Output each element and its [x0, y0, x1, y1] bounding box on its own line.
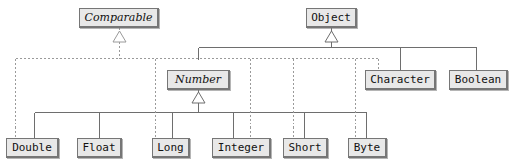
edge-group-object-extends — [199, 28, 477, 70]
class-label-boolean: Boolean — [454, 74, 502, 85]
arrowhead-number-inheritance — [192, 92, 205, 103]
class-box-object[interactable]: Object — [306, 8, 357, 28]
class-box-long[interactable]: Long — [152, 138, 190, 158]
class-label-byte: Byte — [353, 142, 382, 153]
class-label-integer: Integer — [217, 142, 265, 153]
class-label-short: Short — [287, 142, 322, 153]
class-box-boolean[interactable]: Boolean — [449, 70, 508, 90]
class-box-integer[interactable]: Integer — [212, 138, 271, 158]
class-label-double: Double — [11, 142, 53, 153]
edge-group-number-extends — [35, 90, 367, 138]
arrowhead-comparable-realization — [113, 31, 126, 42]
class-label-comparable: Comparable — [84, 12, 154, 23]
class-label-float: Float — [81, 142, 116, 153]
class-hierarchy-diagram: Comparable Object Number Character Boole… — [0, 0, 513, 164]
class-box-number[interactable]: Number — [167, 70, 230, 90]
class-box-float[interactable]: Float — [77, 138, 122, 158]
class-label-character: Character — [369, 74, 431, 85]
class-box-short[interactable]: Short — [283, 138, 328, 158]
class-box-double[interactable]: Double — [6, 138, 59, 158]
class-box-character[interactable]: Character — [365, 70, 436, 90]
class-box-byte[interactable]: Byte — [348, 138, 387, 158]
class-label-long: Long — [156, 142, 185, 153]
arrowhead-object-inheritance — [325, 31, 338, 42]
class-label-number: Number — [174, 74, 222, 85]
class-label-object: Object — [310, 12, 352, 23]
class-box-comparable[interactable]: Comparable — [79, 8, 159, 28]
